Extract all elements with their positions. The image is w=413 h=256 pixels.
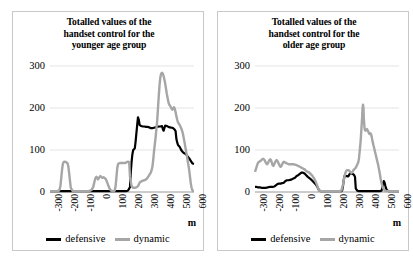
legend-swatch-defensive-icon bbox=[251, 238, 266, 241]
legend-item-defensive: defensive bbox=[251, 234, 310, 245]
legend-older: defensive dynamic bbox=[226, 231, 400, 247]
x-tick-label: -200 bbox=[70, 194, 80, 212]
chart-title-line: handset control for the bbox=[19, 28, 199, 40]
x-tick-label: 100 bbox=[118, 194, 128, 208]
series-paths bbox=[50, 73, 194, 191]
legend-item-dynamic: dynamic bbox=[320, 234, 375, 245]
plot-svg-older bbox=[255, 66, 399, 192]
chart-title-line: older age group bbox=[224, 39, 404, 51]
x-axis-unit-older: m bbox=[393, 218, 401, 228]
series-paths bbox=[255, 105, 399, 192]
x-tick-label: 500 bbox=[387, 194, 397, 208]
x-tick-label: -100 bbox=[86, 194, 96, 212]
x-tick-label: 300 bbox=[150, 194, 160, 208]
plot-area-older bbox=[255, 66, 399, 192]
x-axis-labels-younger: -300-200-1000100200300400500600 bbox=[50, 194, 194, 228]
y-tick-label: 100 bbox=[29, 145, 45, 156]
x-tick-label: 200 bbox=[339, 194, 349, 208]
y-tick-label: 200 bbox=[29, 103, 45, 114]
y-tick-label: 300 bbox=[29, 61, 45, 72]
x-axis-labels-older: -300-200-1000100200300400500600 bbox=[255, 194, 399, 228]
chart-panel-older: Totalled values of the handset control f… bbox=[217, 11, 409, 251]
legend-younger: defensive dynamic bbox=[21, 231, 195, 247]
legend-swatch-dynamic-icon bbox=[115, 238, 130, 241]
y-tick-label: 100 bbox=[234, 145, 250, 156]
legend-label-dynamic: dynamic bbox=[339, 234, 375, 245]
x-tick-label: -300 bbox=[54, 194, 64, 212]
plot-svg-younger bbox=[50, 66, 194, 192]
series-line-dynamic bbox=[50, 73, 194, 191]
x-tick-label: 400 bbox=[166, 194, 176, 208]
series-line-defensive bbox=[50, 117, 194, 191]
y-tick-label: 0 bbox=[245, 187, 250, 198]
series-line-dynamic bbox=[255, 105, 399, 192]
x-tick-label: -300 bbox=[259, 194, 269, 212]
chart-title-line: Totalled values of the bbox=[224, 16, 404, 28]
gridlines bbox=[255, 66, 399, 192]
x-tick-label: 100 bbox=[323, 194, 333, 208]
legend-swatch-dynamic-icon bbox=[320, 238, 335, 241]
x-tick-label: 600 bbox=[198, 194, 208, 208]
x-tick-label: -200 bbox=[275, 194, 285, 212]
y-tick-label: 300 bbox=[234, 61, 250, 72]
x-tick-label: 0 bbox=[307, 194, 317, 199]
chart-title-line: Totalled values of the bbox=[19, 16, 199, 28]
gridlines bbox=[50, 66, 194, 192]
y-tick-label: 0 bbox=[40, 187, 45, 198]
legend-label-dynamic: dynamic bbox=[134, 234, 170, 245]
x-tick-label: 600 bbox=[403, 194, 413, 208]
legend-label-defensive: defensive bbox=[270, 234, 310, 245]
y-axis-labels-younger: 300 200 100 0 bbox=[15, 66, 48, 192]
chart-panel-younger: Totalled values of the handset control f… bbox=[12, 11, 204, 251]
legend-item-defensive: defensive bbox=[46, 234, 105, 245]
chart-title-line: handset control for the bbox=[224, 28, 404, 40]
y-axis-labels-older: 300 200 100 0 bbox=[220, 66, 253, 192]
x-tick-label: 400 bbox=[371, 194, 381, 208]
x-axis-unit-younger: m bbox=[188, 218, 196, 228]
x-tick-label: 500 bbox=[182, 194, 192, 208]
series-line-defensive bbox=[255, 173, 399, 191]
chart-title-younger: Totalled values of the handset control f… bbox=[19, 16, 199, 51]
plot-area-younger bbox=[50, 66, 194, 192]
x-tick-label: 300 bbox=[355, 194, 365, 208]
x-tick-label: 0 bbox=[102, 194, 112, 199]
x-tick-label: -100 bbox=[291, 194, 301, 212]
legend-swatch-defensive-icon bbox=[46, 238, 61, 241]
legend-label-defensive: defensive bbox=[65, 234, 105, 245]
x-tick-label: 200 bbox=[134, 194, 144, 208]
chart-title-older: Totalled values of the handset control f… bbox=[224, 16, 404, 51]
chart-title-line: younger age group bbox=[19, 39, 199, 51]
legend-item-dynamic: dynamic bbox=[115, 234, 170, 245]
y-tick-label: 200 bbox=[234, 103, 250, 114]
